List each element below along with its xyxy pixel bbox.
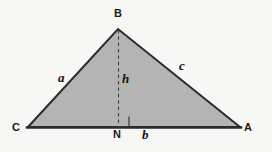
side-label-c: c — [179, 59, 185, 72]
base-label-b: b — [142, 128, 149, 141]
triangle-diagram — [0, 0, 272, 152]
vertex-label-n: N — [113, 129, 121, 140]
side-label-a: a — [58, 71, 65, 84]
vertex-label-b: B — [114, 8, 122, 19]
altitude-label-h: h — [122, 72, 129, 85]
geometry-figure: B C A N a c h b — [0, 0, 272, 152]
vertex-label-c: C — [12, 122, 20, 133]
vertex-label-a: A — [244, 122, 252, 133]
